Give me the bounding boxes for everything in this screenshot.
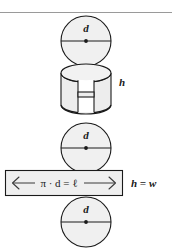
unrolled-rectangle-group: π · d = ℓ h = w xyxy=(6,171,157,196)
height-width-relation: h = w xyxy=(131,177,157,189)
top-circle-group: d xyxy=(61,16,111,66)
middle-circle-label-d: d xyxy=(83,129,89,141)
figure-svg: d h xyxy=(0,0,172,248)
cylinder-label-h: h xyxy=(119,76,125,88)
bottom-circle-label-d: d xyxy=(83,203,89,215)
cylinder-front-slit-lower xyxy=(78,97,94,112)
top-circle-center-dot xyxy=(84,39,88,43)
middle-circle-group: d xyxy=(61,123,111,173)
top-circle-label-d: d xyxy=(83,22,89,34)
cylinder-front-slit xyxy=(78,80,94,92)
circumference-formula: π · d = ℓ xyxy=(40,177,77,189)
bottom-circle-center-dot xyxy=(84,220,88,224)
cylinder-group: h xyxy=(61,64,125,114)
middle-circle-center-dot xyxy=(84,146,88,150)
cylinder-top-ellipse xyxy=(61,64,111,82)
cylinder-slit-connector-band xyxy=(78,92,94,97)
geometry-figure: d h xyxy=(0,0,172,248)
bottom-circle-group: d xyxy=(61,197,111,247)
